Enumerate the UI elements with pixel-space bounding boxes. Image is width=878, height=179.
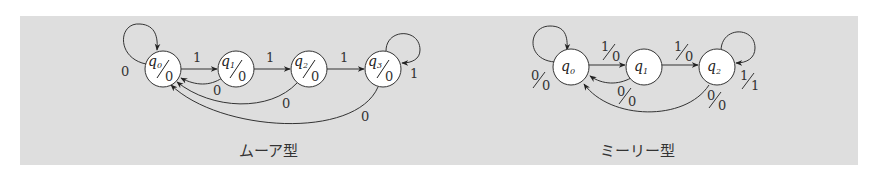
mealy-edge-q0-q1-label: 1 0 (601, 39, 620, 64)
svg-text:0: 0 (311, 69, 319, 84)
svg-text:0: 0 (238, 69, 246, 84)
mealy-edge-q1-q0-label: 0 0 (617, 84, 636, 109)
mealy-edge-q1-q0 (590, 76, 631, 83)
mealy-state-q1: q1 (626, 49, 662, 85)
moore-edge-q1-q0-label: 0 (213, 83, 221, 98)
svg-text:0: 0 (542, 78, 550, 93)
moore-edge-q1-q2-label: 1 (266, 50, 274, 65)
moore-diagram: 0 1 1 1 0 0 0 1 q0 0 q1 0 (121, 24, 420, 160)
mealy-state-q0: q0 (553, 49, 589, 85)
moore-edge-q3-q0-label: 0 (361, 109, 369, 124)
svg-text:1: 1 (751, 78, 759, 93)
svg-text:1: 1 (740, 68, 748, 83)
moore-edge-q2-q0-label: 0 (282, 96, 290, 111)
mealy-q0-loop-label: 0 0 (531, 68, 550, 93)
moore-edge-q0-q1-label: 1 (193, 50, 201, 65)
mealy-edge-q2-q0-label: 0 0 (707, 88, 726, 113)
moore-q0-loop-label: 0 (121, 64, 129, 79)
mealy-title: ミーリー型 (600, 142, 675, 160)
svg-text:0: 0 (718, 98, 726, 113)
svg-text:0: 0 (612, 49, 620, 64)
moore-title: ムーア型 (239, 142, 298, 160)
mealy-diagram: 0 0 1 0 1 0 0 0 0 0 (531, 26, 759, 160)
svg-text:0: 0 (385, 69, 393, 84)
mealy-edge-q1-q2-label: 1 0 (674, 39, 693, 64)
mealy-edge-q2-q0 (584, 84, 709, 112)
moore-edge-q3-q0 (171, 85, 378, 124)
moore-state-q0: q0 0 (145, 51, 181, 87)
moore-edge-q2-q3-label: 1 (340, 50, 348, 65)
moore-state-q1: q1 0 (218, 51, 254, 87)
moore-state-q3: q3 0 (365, 51, 401, 87)
moore-state-q2: q2 0 (291, 51, 327, 87)
svg-text:0: 0 (165, 69, 173, 84)
moore-q3-loop-label: 1 (410, 66, 418, 81)
mealy-state-q2: q2 (699, 49, 735, 85)
svg-text:0: 0 (628, 94, 636, 109)
svg-text:1: 1 (674, 39, 682, 54)
state-diagrams: 0 1 1 1 0 0 0 1 q0 0 q1 0 (0, 0, 878, 179)
svg-text:1: 1 (601, 39, 609, 54)
svg-text:0: 0 (685, 49, 693, 64)
mealy-q2-loop-label: 1 1 (740, 68, 759, 93)
